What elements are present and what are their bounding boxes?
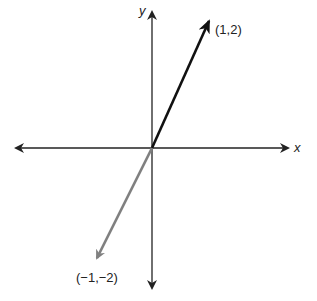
- vector-label-neg1-neg2: (−1,−2): [76, 271, 118, 284]
- vector-diagram: y x (1,2) (−1,−2): [0, 0, 317, 301]
- vector-neg1-neg2: [97, 148, 152, 258]
- vector-1-2: [152, 21, 209, 148]
- y-axis-label: y: [139, 4, 146, 17]
- axes-and-vectors: [0, 0, 317, 301]
- x-axis-label: x: [294, 141, 301, 154]
- vector-label-1-2: (1,2): [215, 23, 242, 36]
